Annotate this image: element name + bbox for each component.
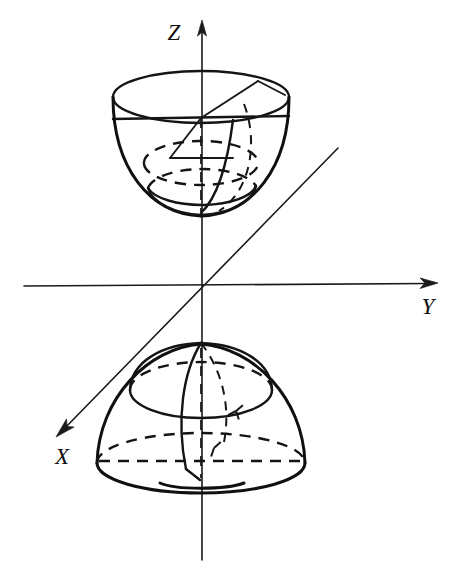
coordinate-diagram: Z Y X bbox=[0, 0, 467, 576]
x-axis-label: X bbox=[54, 444, 70, 469]
figure-root: Z Y X bbox=[0, 0, 467, 576]
canvas-background bbox=[0, 0, 467, 576]
y-axis-label: Y bbox=[422, 294, 437, 319]
z-axis-label: Z bbox=[168, 20, 181, 45]
